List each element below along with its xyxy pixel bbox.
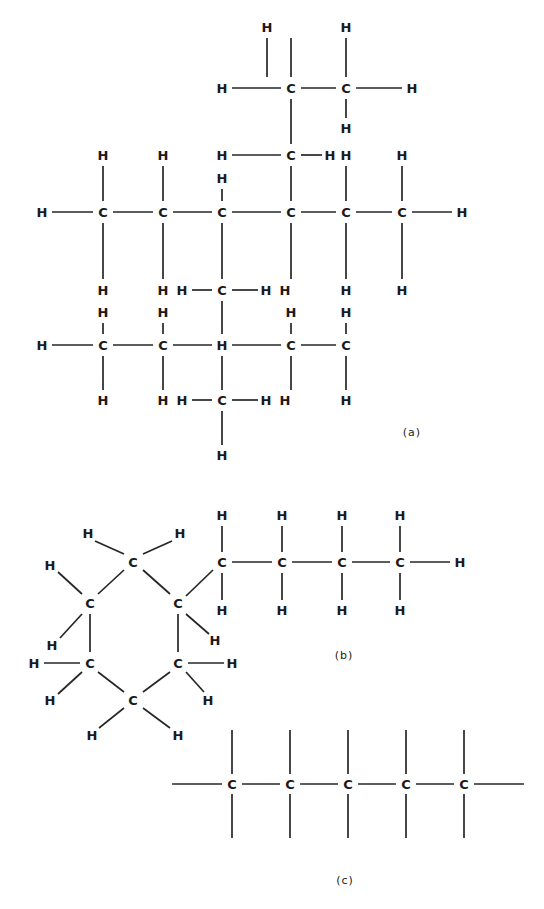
molecule-canvas: HHHCCHHHHHCHHHHHCCCCCCHHHHCHHHHHHHHHCCHC… <box>0 0 544 909</box>
atom-hydrogen-label: H <box>217 603 228 618</box>
atom-carbon-label: C <box>85 596 95 611</box>
atom-carbon-label: C <box>395 555 405 570</box>
atom-hydrogen-label: H <box>457 205 468 220</box>
atom-carbon-label: C <box>459 777 469 792</box>
atom-carbon-label: C <box>286 81 296 96</box>
atom-hydrogen-label: H <box>325 148 336 163</box>
atom-hydrogen-label: H <box>98 305 109 320</box>
atom-hydrogen-label: H <box>173 728 184 743</box>
atom-hydrogen-label: H <box>395 603 406 618</box>
atom-carbon-label: C <box>217 205 227 220</box>
atom-hydrogen-label: H <box>87 728 98 743</box>
atom-hydrogen-label: H <box>45 558 56 573</box>
atom-hydrogen-label: H <box>158 305 169 320</box>
atom-hydrogen-label: H <box>261 283 272 298</box>
atom-carbon-label: C <box>341 81 351 96</box>
atom-carbon-label: C <box>397 205 407 220</box>
atom-carbon-label: C <box>173 656 183 671</box>
atom-carbon-label: C <box>128 693 138 708</box>
atom-hydrogen-label: H <box>341 20 352 35</box>
atom-carbon-label: C <box>277 555 287 570</box>
atom-hydrogen-label: H <box>98 393 109 408</box>
atom-hydrogen-label: H <box>177 393 188 408</box>
atom-hydrogen-label: H <box>227 656 238 671</box>
atom-hydrogen-label: H <box>341 283 352 298</box>
atom-hydrogen-label: H <box>341 148 352 163</box>
atom-hydrogen-label: H <box>395 508 406 523</box>
atom-hydrogen-label: H <box>337 603 348 618</box>
atom-hydrogen-label: H <box>337 508 348 523</box>
atom-hydrogen-label: H <box>286 305 297 320</box>
figure-background <box>0 0 544 909</box>
atom-hydrogen-label: H <box>217 508 228 523</box>
panel-caption-c: (c) <box>336 874 354 887</box>
atom-carbon-label: C <box>98 205 108 220</box>
atom-carbon-label: C <box>285 777 295 792</box>
atom-carbon-label: C <box>341 205 351 220</box>
atom-hydrogen-label: H <box>158 148 169 163</box>
atom-carbon-label: C <box>158 338 168 353</box>
atom-hydrogen-label: H <box>455 555 466 570</box>
atom-hydrogen-label: H <box>217 81 228 96</box>
atom-hydrogen-label: H <box>158 393 169 408</box>
atom-carbon-label: C <box>173 596 183 611</box>
atom-carbon-label: C <box>337 555 347 570</box>
atom-hydrogen-label: H <box>280 393 291 408</box>
atom-carbon-label: C <box>286 205 296 220</box>
atom-hydrogen-label: H <box>341 393 352 408</box>
atom-hydrogen-label: H <box>397 148 408 163</box>
atom-carbon-label: C <box>343 777 353 792</box>
atom-hydrogen-label: H <box>29 656 40 671</box>
atom-hydrogen-label: H <box>47 638 58 653</box>
atom-carbon-label: C <box>227 777 237 792</box>
atom-carbon-label: C <box>217 393 227 408</box>
atom-hydrogen-label: H <box>262 20 273 35</box>
atom-hydrogen-label: H <box>277 508 288 523</box>
atom-hydrogen-label: H <box>217 148 228 163</box>
atom-hydrogen-label: H <box>177 283 188 298</box>
atom-hydrogen-label: H <box>37 205 48 220</box>
atom-carbon-label: C <box>98 338 108 353</box>
atom-hydrogen-label: H <box>397 283 408 298</box>
atom-carbon-label: C <box>401 777 411 792</box>
atom-carbon-label: C <box>217 555 227 570</box>
atom-carbon-label: C <box>286 338 296 353</box>
atom-carbon-label: C <box>158 205 168 220</box>
atom-carbon-label: C <box>286 148 296 163</box>
panel-caption-b: (b) <box>335 649 354 662</box>
panel-caption-a: (a) <box>403 426 421 439</box>
atom-hydrogen-label: H <box>175 526 186 541</box>
atom-hydrogen-label: H <box>37 338 48 353</box>
atom-hydrogen-label: H <box>261 393 272 408</box>
atom-hydrogen-label: H <box>407 81 418 96</box>
molecular-structure-figure: HHHCCHHHHHCHHHHHCCCCCCHHHHCHHHHHHHHHCCHC… <box>0 0 544 909</box>
atom-hydrogen-label: H <box>210 633 221 648</box>
atom-hydrogen-label: H <box>341 305 352 320</box>
atom-hydrogen-label: H <box>98 283 109 298</box>
atom-hydrogen-label: H <box>98 148 109 163</box>
atom-carbon-label: C <box>217 283 227 298</box>
atom-carbon-label: C <box>128 555 138 570</box>
atom-hydrogen-label: H <box>217 338 228 353</box>
atom-hydrogen-label: H <box>280 283 291 298</box>
atom-hydrogen-label: H <box>341 121 352 136</box>
atom-carbon-label: C <box>85 656 95 671</box>
atom-hydrogen-label: H <box>158 283 169 298</box>
atom-hydrogen-label: H <box>277 603 288 618</box>
atom-hydrogen-label: H <box>83 526 94 541</box>
atom-hydrogen-label: H <box>217 448 228 463</box>
atom-hydrogen-label: H <box>217 171 228 186</box>
atom-carbon-label: C <box>341 338 351 353</box>
atom-hydrogen-label: H <box>45 693 56 708</box>
atom-hydrogen-label: H <box>203 693 214 708</box>
